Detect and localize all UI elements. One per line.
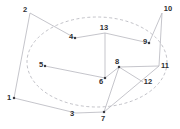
graph-node-label-2: 2 [23,5,27,14]
graph-node-label-12: 12 [144,77,152,86]
graph-edge-3-7 [76,112,104,113]
graph-canvas: 12345678910111213 [0,0,180,129]
graph-node-dot-6 [104,77,106,79]
graph-edge-8-12 [119,67,143,82]
graph-node-dot-9 [148,42,150,44]
graph-node-label-8: 8 [115,57,119,66]
graph-node-label-13: 13 [100,23,108,32]
graph-node-label-3: 3 [70,109,74,118]
node-link-diagram: 12345678910111213 [0,0,180,129]
graph-edge-7-11 [104,66,159,112]
graph-edge-10-11 [159,13,162,66]
graph-edge-9-10 [149,13,162,43]
graph-node-label-11: 11 [161,61,169,70]
graph-edge-4-13 [75,33,105,38]
graph-node-label-7: 7 [101,114,105,123]
graph-node-dot-8 [118,66,120,68]
graph-edge-5-6 [45,66,105,78]
graph-edge-8-11 [119,66,159,67]
graph-node-label-10: 10 [164,4,172,13]
cluster-ellipse [27,17,167,107]
graph-node-dot-5 [44,65,46,67]
graph-node-label-6: 6 [99,77,103,86]
graph-node-label-4: 4 [69,32,74,41]
graph-node-dot-1 [13,97,15,99]
graph-node-dot-4 [74,37,76,39]
graph-node-label-1: 1 [7,93,11,102]
graph-edge-1-3 [14,98,76,113]
graph-node-label-5: 5 [39,60,43,69]
graph-node-label-9: 9 [143,37,147,46]
